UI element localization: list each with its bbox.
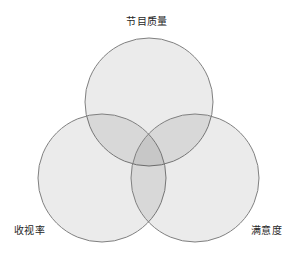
venn-circle-satisfaction: [131, 114, 259, 242]
venn-diagram-figure: 节目质量 收视率 满意度: [0, 0, 294, 258]
venn-label-satisfaction: 满意度: [251, 225, 282, 237]
venn-circle-group: [38, 38, 259, 242]
venn-label-viewership-rating: 收视率: [14, 225, 45, 237]
venn-label-program-quality: 节目质量: [0, 16, 294, 28]
venn-canvas: [0, 0, 294, 258]
